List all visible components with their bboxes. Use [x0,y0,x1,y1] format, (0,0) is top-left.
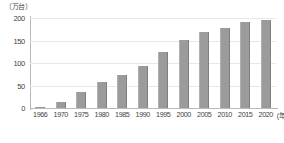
x-axis-tick-label: 1985 [115,110,129,119]
y-axis-tick-label: 150 [13,36,25,45]
bar [76,92,86,108]
x-axis-tick-label: 2005 [197,110,211,119]
bar [158,52,168,108]
x-axis-tick-label: 2020 [259,110,273,119]
x-axis-unit-label: (年) [277,110,284,120]
y-axis-tick-label: 200 [13,14,25,23]
x-axis-tick-label: 1995 [156,110,170,119]
x-axis-tick-label: 2015 [238,110,252,119]
y-axis-tick-label: 50 [17,81,25,90]
x-axis-tick-label: 2000 [177,110,191,119]
x-axis-tick-label: 1975 [74,110,88,119]
bar [240,22,250,108]
bar [35,107,45,108]
bar-series [30,18,276,108]
y-axis-tick-label: 100 [13,59,25,68]
bar [97,82,107,108]
bar [220,28,230,108]
bar [199,32,209,109]
x-axis-tick-label: 1980 [95,110,109,119]
y-axis-tick-label: 0 [21,104,25,113]
bar [261,20,271,108]
x-axis-tick-label: 1990 [136,110,150,119]
y-axis-tick-labels: 050100150200 [0,18,27,108]
x-axis-tick-label: 1970 [54,110,68,119]
bar [138,66,148,108]
plot-area [30,18,276,108]
bar-chart: 〔万台〕 050100150200 1966197019751980198519… [0,0,284,143]
x-axis-tick-labels: 1966197019751980198519901995200020052010… [30,109,278,121]
bar [179,40,189,108]
bar [117,75,127,108]
bar [56,102,66,108]
y-axis-unit-label: 〔万台〕 [5,1,32,11]
x-axis-tick-label: 1966 [33,110,47,119]
x-axis-tick-label: 2010 [218,110,232,119]
